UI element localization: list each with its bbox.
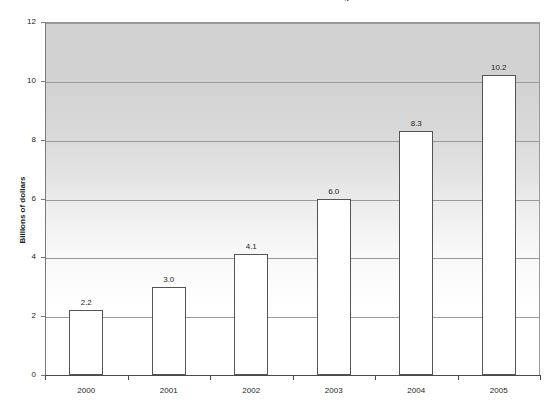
- bar-2001[interactable]: [152, 287, 186, 375]
- x-tick-mark: [293, 375, 294, 380]
- bar-value-label-2005: 10.2: [469, 63, 529, 72]
- gridline-y-2: [45, 317, 539, 318]
- x-tick-label-2000: 2000: [46, 386, 126, 395]
- y-tick-mark-4: [41, 257, 45, 258]
- x-tick-mark: [45, 375, 46, 380]
- bar-2005[interactable]: [482, 75, 516, 375]
- y-tick-label: 0: [8, 371, 36, 379]
- x-tick-label-2005: 2005: [459, 386, 539, 395]
- y-tick-label: 2: [8, 312, 36, 320]
- bar-chart: Estimated Costs for Smart Building Billi…: [0, 0, 560, 414]
- y-tick-mark-8: [41, 140, 45, 141]
- y-axis-title: Billions of dollars: [18, 150, 27, 270]
- y-tick-mark-2: [41, 316, 45, 317]
- x-tick-mark: [375, 375, 376, 380]
- y-tick-label: 8: [8, 136, 36, 144]
- y-tick-label: 6: [8, 195, 36, 203]
- gridline-y-4: [45, 258, 539, 259]
- gridline-y-10: [45, 82, 539, 83]
- bar-value-label-2002: 4.1: [221, 242, 281, 251]
- chart-title: Estimated Costs for Smart Building: [0, 0, 560, 1]
- x-tick-label-2004: 2004: [376, 386, 456, 395]
- bar-2004[interactable]: [399, 131, 433, 375]
- x-tick-label-2002: 2002: [211, 386, 291, 395]
- y-tick-label: 10: [8, 77, 36, 85]
- y-axis-line: [45, 22, 46, 376]
- bar-2002[interactable]: [234, 254, 268, 375]
- gridline-y-8: [45, 141, 539, 142]
- y-tick-mark-6: [41, 199, 45, 200]
- y-tick-label: 4: [8, 253, 36, 261]
- y-tick-mark-12: [41, 22, 45, 23]
- x-tick-mark: [540, 375, 541, 380]
- x-tick-label-2001: 2001: [129, 386, 209, 395]
- gridline-y-12: [45, 23, 539, 24]
- bar-2003[interactable]: [317, 199, 351, 376]
- x-tick-mark: [128, 375, 129, 380]
- bar-value-label-2001: 3.0: [139, 275, 199, 284]
- gridline-y-6: [45, 200, 539, 201]
- x-tick-mark: [458, 375, 459, 380]
- y-tick-mark-10: [41, 81, 45, 82]
- y-tick-label: 12: [8, 18, 36, 26]
- bar-value-label-2004: 8.3: [386, 119, 446, 128]
- bar-value-label-2000: 2.2: [56, 298, 116, 307]
- bar-value-label-2003: 6.0: [304, 187, 364, 196]
- bar-2000[interactable]: [69, 310, 103, 375]
- x-tick-label-2003: 2003: [294, 386, 374, 395]
- x-tick-mark: [210, 375, 211, 380]
- plot-area: [45, 22, 540, 375]
